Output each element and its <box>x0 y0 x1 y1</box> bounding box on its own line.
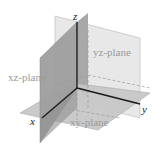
y-axis-label: y <box>141 103 147 115</box>
x-axis-label: x <box>29 115 35 127</box>
z-axis-label: z <box>72 10 78 22</box>
xz-plane-label: xz-plane <box>8 71 46 83</box>
yz-plane-label: yz-plane <box>93 46 131 58</box>
xy-plane-label: xy-plane <box>70 116 109 128</box>
coordinate-planes-diagram: z x y yz-plane xz-plane xy-plane <box>0 0 164 154</box>
